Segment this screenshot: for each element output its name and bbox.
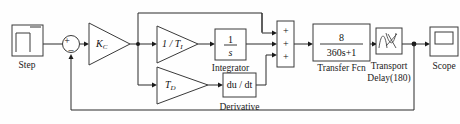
block-gain-td[interactable]: TD xyxy=(157,67,208,104)
transport-delay-label-line2: Delay(180) xyxy=(367,73,410,84)
arrow-into-sum3-middle xyxy=(272,42,277,47)
block-derivative[interactable]: du / dt Derivative xyxy=(219,73,259,112)
derivative-label: Derivative xyxy=(219,102,259,112)
block-diagram-canvas: Step + – KC 1 / TI 1 s Integrator xyxy=(0,0,460,124)
block-step[interactable]: Step xyxy=(12,25,43,70)
transfer-fcn-numerator: 8 xyxy=(339,32,344,43)
integrator-label: Integrator xyxy=(212,63,250,73)
arrow-into-sum3-top xyxy=(272,31,277,36)
step-block-body[interactable] xyxy=(12,25,43,56)
wire-derivative-branch xyxy=(138,44,153,85)
transport-delay-label-line1: Transport xyxy=(371,61,408,71)
arrow-into-integrator xyxy=(210,42,215,47)
block-integrator[interactable]: 1 s Integrator xyxy=(212,29,250,73)
arrow-into-transfer-fcn xyxy=(308,42,313,47)
wire-derivative-to-sum3 xyxy=(256,55,275,85)
junction-dot-after-kc xyxy=(136,42,140,46)
arrow-into-gain-kc xyxy=(84,42,89,47)
block-diagram-svg: Step + – KC 1 / TI 1 s Integrator xyxy=(0,0,460,124)
arrow-into-gain-inv-ti xyxy=(152,42,157,47)
block-transfer-fcn[interactable]: 8 360s+1 Transfer Fcn xyxy=(313,24,370,73)
arrow-into-scope xyxy=(425,42,430,47)
scope-block-body[interactable] xyxy=(430,27,458,56)
sum3-sign-2: + xyxy=(283,38,289,49)
block-sum-error[interactable]: + – xyxy=(63,35,80,55)
block-sum-three[interactable]: + + + xyxy=(277,21,294,67)
block-transport-delay[interactable]: Transport Delay(180) xyxy=(367,28,410,84)
scope-label: Scope xyxy=(432,61,455,71)
derivative-expression: du / dt xyxy=(227,79,253,90)
block-gain-kc[interactable]: KC xyxy=(89,23,130,65)
arrow-into-derivative xyxy=(218,83,223,88)
block-gain-inv-ti[interactable]: 1 / TI xyxy=(157,26,198,63)
block-scope[interactable]: Scope xyxy=(430,27,458,71)
arrow-into-gain-td xyxy=(152,83,157,88)
step-label: Step xyxy=(19,60,36,70)
wire-top-to-sum3 xyxy=(262,13,275,33)
sum-error-minus-label: – xyxy=(68,44,75,55)
integrator-denominator: s xyxy=(229,47,233,58)
arrow-into-sum3-bottom xyxy=(272,53,277,58)
sum3-sign-1: + xyxy=(283,25,289,36)
transfer-fcn-denominator: 360s+1 xyxy=(327,47,357,58)
transfer-fcn-label: Transfer Fcn xyxy=(317,63,366,73)
sum3-sign-3: + xyxy=(283,51,289,62)
integrator-numerator: 1 xyxy=(228,34,233,45)
